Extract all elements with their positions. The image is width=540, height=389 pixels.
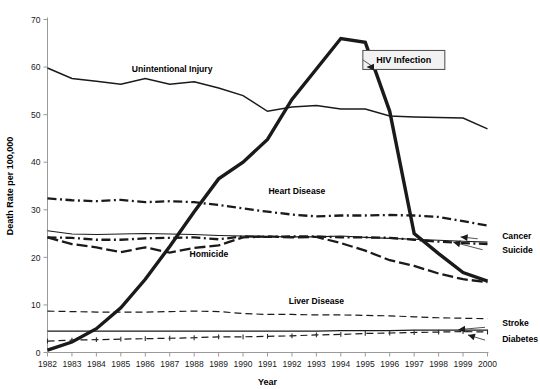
y-tick-label: 70 (31, 15, 41, 25)
series-label-heart-disease: Heart Disease (268, 186, 325, 196)
series-label-homicide: Homicide (189, 249, 228, 259)
x-tick-label: 1983 (62, 359, 81, 369)
x-tick-label: 1996 (380, 359, 399, 369)
line-chart: 010203040506070 198219831984198519861987… (0, 0, 540, 389)
x-tick-label: 1997 (405, 359, 424, 369)
x-tick-label: 1987 (160, 359, 179, 369)
series-label-unintentional-injury: Unintentional Injury (132, 64, 213, 74)
chart-container: 010203040506070 198219831984198519861987… (0, 0, 540, 389)
series-line-homicide (48, 236, 488, 282)
annotation-arrowhead (461, 234, 468, 241)
x-tick-label: 1999 (454, 359, 473, 369)
y-tick-label: 30 (31, 205, 41, 215)
series-line-heart-disease (48, 198, 488, 225)
x-tick-label: 1982 (38, 359, 57, 369)
series-label-suicide: Suicide (502, 245, 533, 255)
x-tick-label: 1988 (185, 359, 204, 369)
annotation-arrowhead (468, 334, 476, 341)
y-tick-label: 40 (31, 157, 41, 167)
series-annotations: Unintentional InjuryHIV InfectionHeart D… (132, 50, 538, 343)
series-label-diabetes: Diabetes (502, 334, 538, 344)
y-tick-label: 50 (31, 110, 41, 120)
callout-label-hiv: HIV Infection (376, 55, 431, 65)
x-axis-ticks: 1982198319841985198619871988198919901991… (38, 353, 497, 369)
annotation-arrowhead (453, 241, 461, 248)
y-tick-label: 10 (31, 300, 41, 310)
y-tick-label: 20 (31, 253, 41, 263)
x-tick-label: 1989 (209, 359, 228, 369)
series-label-cancer: Cancer (502, 231, 532, 241)
series-label-stroke: Stroke (502, 318, 529, 328)
x-tick-label: 1985 (111, 359, 130, 369)
x-tick-label: 1998 (429, 359, 448, 369)
y-tick-label: 60 (31, 62, 41, 72)
x-axis-title: Year (258, 377, 278, 387)
x-tick-label: 1984 (87, 359, 106, 369)
x-tick-label: 1994 (331, 359, 350, 369)
series-label-liver-disease: Liver Disease (289, 296, 345, 306)
x-tick-label: 2000 (478, 359, 497, 369)
x-tick-label: 1986 (136, 359, 155, 369)
y-tick-label: 0 (36, 348, 41, 358)
series-line-stroke (48, 330, 488, 331)
y-axis-ticks: 010203040506070 (31, 15, 47, 358)
x-tick-label: 1995 (356, 359, 375, 369)
series-line-unintentional-injury (48, 68, 488, 129)
x-tick-label: 1993 (307, 359, 326, 369)
x-tick-label: 1990 (234, 359, 253, 369)
y-axis-title: Death Rate per 100,000 (5, 137, 15, 236)
x-tick-label: 1992 (282, 359, 301, 369)
x-tick-label: 1991 (258, 359, 277, 369)
